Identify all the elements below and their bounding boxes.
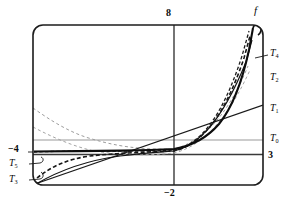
curve-t5 [37, 36, 250, 178]
curve-label-t2-text: T [270, 71, 276, 82]
axis-label-right: 3 [268, 150, 273, 160]
curve-t2-lower [33, 70, 250, 155]
curve-label-f: f [254, 5, 257, 16]
curve-label-t0-sub: 0 [276, 137, 279, 144]
leader-t4 [255, 55, 268, 58]
curve-label-t5: T5 [9, 158, 18, 168]
curve-t4 [34, 31, 249, 152]
curves-group [33, 24, 263, 184]
curve-label-t1-sub: 1 [276, 107, 279, 114]
curve-label-t5-text: T [9, 157, 15, 168]
axis-label-bottom: −2 [164, 188, 175, 198]
curve-t3 [36, 40, 252, 184]
curve-label-t4-text: T [270, 47, 276, 58]
axis-label-left: −4 [8, 144, 19, 154]
curve-label-t1: T1 [270, 103, 279, 113]
graph-canvas [0, 0, 297, 206]
curve-label-t4: T4 [270, 48, 279, 58]
curve-t1 [35, 105, 263, 184]
curve-label-t2: T2 [270, 72, 279, 82]
curve-label-t0: T0 [270, 133, 279, 143]
leader-t3 [29, 172, 43, 180]
curve-label-t3-sub: 3 [15, 178, 18, 185]
axis-label-top: 8 [166, 8, 171, 18]
curve-label-t0-text: T [270, 132, 276, 143]
curve-label-t3-text: T [9, 173, 15, 184]
curve-f [34, 28, 253, 152]
curve-t2 [33, 66, 248, 149]
figure-container: 8 −2 −4 3 f T4 T2 T1 T0 T5 T3 [0, 0, 297, 206]
curve-label-t1-text: T [270, 102, 276, 113]
curve-label-t3: T3 [9, 174, 18, 184]
curve-label-t5-sub: 5 [15, 162, 18, 169]
curve-label-t4-sub: 4 [276, 52, 279, 59]
curve-label-t2-sub: 2 [276, 76, 279, 83]
leader-t5 [29, 157, 43, 164]
